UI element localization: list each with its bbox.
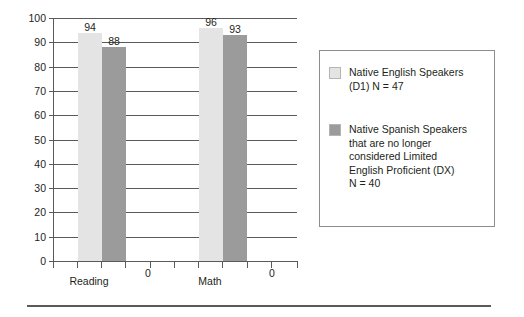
bar-value-reading-native-english: 94: [78, 22, 102, 33]
bar-reading-native-spanish: [102, 47, 126, 261]
gridline-100: [54, 18, 297, 19]
x-tick-8: [247, 261, 248, 268]
x-axis-line: [53, 261, 298, 262]
bottom-divider-rule: [27, 305, 491, 307]
y-tick-label-40: 40: [20, 159, 46, 170]
y-tick-label-100: 100: [20, 13, 46, 24]
bar-value-math-native-english: 96: [199, 17, 223, 28]
x-tick-2: [101, 261, 102, 268]
bar-reading-native-english: [78, 33, 102, 261]
bar-chart-figure: 100 90 80 70 60 50 40 30 20 10 0: [0, 0, 524, 317]
y-tick-label-50: 50: [20, 135, 46, 146]
y-tick-label-30: 30: [20, 183, 46, 194]
bar-math-native-english: [199, 28, 223, 261]
bar-value-reading-native-spanish: 88: [102, 36, 126, 47]
x-tick-1: [77, 261, 78, 268]
bar-value-math-native-spanish: 93: [223, 24, 247, 35]
x-tick-0: [53, 261, 54, 268]
x-tick-10: [297, 261, 298, 268]
y-tick-label-10: 10: [20, 232, 46, 243]
bar-math-native-spanish: [223, 35, 247, 261]
y-tick-label-70: 70: [20, 86, 46, 97]
legend-swatch-native-spanish-speakers: [329, 124, 341, 136]
chart-legend: Native English Speakers (D1) N = 47 Nati…: [319, 50, 495, 227]
x-axis-category-label-math: Math: [186, 276, 234, 287]
legend-entry-native-spanish-speakers: Native Spanish Speakers that are no long…: [329, 123, 491, 191]
x-tick-3: [125, 261, 126, 268]
legend-label-native-spanish-speakers: Native Spanish Speakers that are no long…: [349, 123, 467, 191]
x-tick-7: [222, 261, 223, 268]
x-axis-category-label-reading: Reading: [59, 276, 119, 287]
x-tick-6: [198, 261, 199, 268]
y-tick-label-20: 20: [20, 207, 46, 218]
legend-swatch-native-english-speakers: [329, 67, 341, 79]
plot-area: 94 88 96 93: [54, 18, 297, 261]
y-tick-label-0: 0: [20, 256, 46, 267]
y-axis-labels: 100 90 80 70 60 50 40 30 20 10 0: [16, 18, 46, 261]
legend-entry-native-english-speakers: Native English Speakers (D1) N = 47: [329, 66, 489, 93]
x-axis-zero-label-2: 0: [256, 268, 288, 279]
y-tick-label-90: 90: [20, 37, 46, 48]
y-tick-label-80: 80: [20, 62, 46, 73]
x-axis-zero-label-1: 0: [132, 268, 164, 279]
y-tick-label-60: 60: [20, 110, 46, 121]
legend-label-native-english-speakers: Native English Speakers (D1) N = 47: [349, 66, 463, 93]
x-tick-5: [174, 261, 175, 268]
